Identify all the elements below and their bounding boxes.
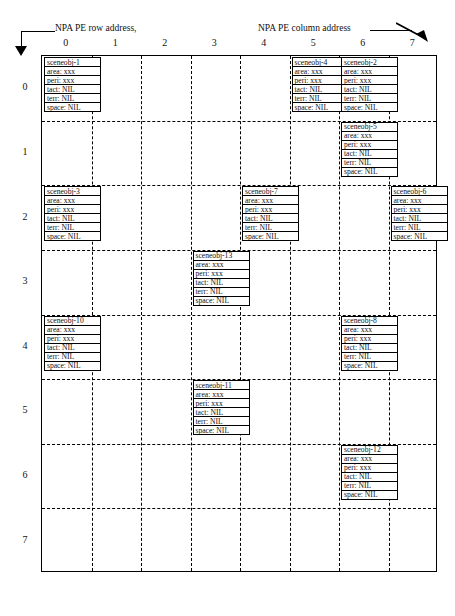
grid-vline-2 <box>141 56 142 571</box>
grid-vline-6 <box>339 56 340 571</box>
cutoff-caption-text <box>10 600 440 616</box>
field-space: space: NIL <box>193 296 250 306</box>
row-address-leader-line <box>22 31 55 32</box>
column-tick-5: 5 <box>306 37 320 48</box>
grid-vline-1 <box>92 56 93 571</box>
scene-object-sceneobj-1[interactable]: sceneobj-1area: xxxperi: xxxtact: NILter… <box>44 57 101 112</box>
scene-object-sceneobj-13[interactable]: sceneobj-13area: xxxperi: xxxtact: NILte… <box>193 251 250 306</box>
field-space: space: NIL <box>242 231 299 241</box>
row-tick-4: 4 <box>18 340 32 351</box>
field-space: space: NIL <box>193 425 250 435</box>
scene-object-sceneobj-12[interactable]: sceneobj-12area: xxxperi: xxxtact: NILte… <box>341 445 398 500</box>
row-tick-2: 2 <box>18 211 32 222</box>
row-tick-1: 1 <box>18 146 32 157</box>
grid-vline-3 <box>191 56 192 571</box>
scene-object-sceneobj-8[interactable]: sceneobj-8area: xxxperi: xxxtact: NILter… <box>341 316 398 371</box>
field-space: space: NIL <box>391 231 448 241</box>
column-tick-0: 0 <box>59 37 73 48</box>
scene-object-sceneobj-10[interactable]: sceneobj-10area: xxxperi: xxxtact: NILte… <box>44 316 101 371</box>
row-tick-5: 5 <box>18 404 32 415</box>
row-address-label: NPA PE row address, <box>55 23 136 33</box>
scene-object-sceneobj-5[interactable]: sceneobj-5area: xxxperi: xxxtact: NILter… <box>341 122 398 177</box>
field-space: space: NIL <box>341 102 398 112</box>
pe-array-grid: sceneobj-1area: xxxperi: xxxtact: NILter… <box>41 55 437 572</box>
field-space: space: NIL <box>341 167 398 177</box>
column-tick-6: 6 <box>356 37 370 48</box>
row-address-arrow-icon <box>15 46 27 56</box>
scene-object-sceneobj-7[interactable]: sceneobj-7area: xxxperi: xxxtact: NILter… <box>242 186 299 241</box>
field-space: space: NIL <box>341 490 398 500</box>
field-space: space: NIL <box>44 361 101 371</box>
field-space: space: NIL <box>341 361 398 371</box>
scene-object-sceneobj-6[interactable]: sceneobj-6area: xxxperi: xxxtact: NILter… <box>391 186 448 241</box>
cutoff-header-text <box>8 0 248 9</box>
scene-object-sceneobj-11[interactable]: sceneobj-11area: xxxperi: xxxtact: NILte… <box>193 380 250 435</box>
column-tick-3: 3 <box>207 37 221 48</box>
grid-vline-4 <box>240 56 241 571</box>
scene-object-sceneobj-4[interactable]: sceneobj-4area: xxxperi: xxxtact: NILter… <box>292 57 349 112</box>
column-tick-4: 4 <box>257 37 271 48</box>
field-space: space: NIL <box>292 102 349 112</box>
column-tick-1: 1 <box>108 37 122 48</box>
grid-vline-5 <box>290 56 291 571</box>
scene-object-sceneobj-3[interactable]: sceneobj-3area: xxxperi: xxxtact: NILter… <box>44 186 101 241</box>
row-tick-7: 7 <box>18 534 32 545</box>
row-tick-3: 3 <box>18 275 32 286</box>
field-space: space: NIL <box>44 231 101 241</box>
column-tick-7: 7 <box>405 37 419 48</box>
npa-pe-array-diagram: NPA PE row address, NPA PE column addres… <box>0 0 455 616</box>
field-space: space: NIL <box>44 102 101 112</box>
scene-object-sceneobj-2[interactable]: sceneobj-2area: xxxperi: xxxtact: NILter… <box>341 57 398 112</box>
column-address-label: NPA PE column address <box>258 23 351 33</box>
grid-hline-2 <box>42 185 436 186</box>
column-tick-2: 2 <box>158 37 172 48</box>
row-tick-6: 6 <box>18 469 32 480</box>
grid-hline-7 <box>42 508 436 509</box>
row-tick-0: 0 <box>18 81 32 92</box>
